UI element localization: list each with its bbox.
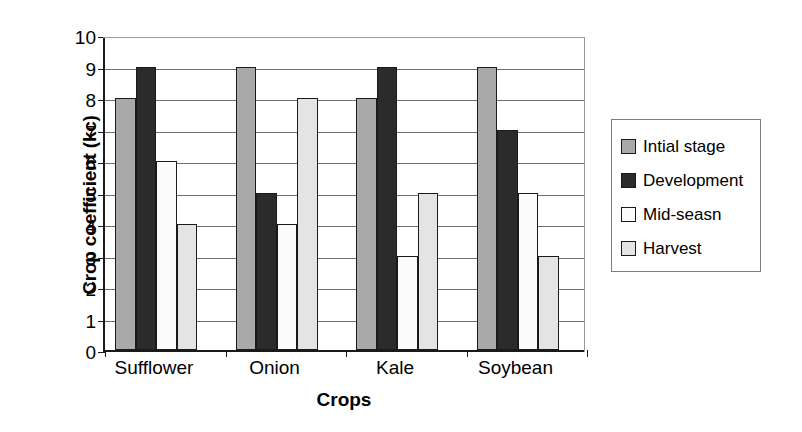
legend-item: Intial stage (621, 129, 760, 163)
legend-label: Harvest (643, 240, 702, 257)
bar (136, 67, 157, 351)
x-axis-tick-mark (226, 350, 227, 357)
x-axis-tick-label: Soybean (478, 358, 553, 377)
plot-area (103, 37, 585, 352)
bar (356, 98, 377, 350)
legend-swatch-icon (621, 207, 636, 222)
bar (497, 130, 518, 351)
y-axis-tick-mark (98, 37, 105, 38)
y-axis-tick-label: 3 (56, 248, 96, 267)
x-axis-tick-mark (105, 350, 106, 357)
x-axis-tick-mark (467, 350, 468, 357)
bar (397, 256, 418, 351)
bar (277, 224, 298, 350)
legend-label: Mid-seasn (643, 206, 721, 223)
bar (377, 67, 398, 351)
y-axis-tick-mark (98, 321, 105, 322)
y-axis-tick-label: 0 (56, 343, 96, 362)
y-axis-tick-label: 2 (56, 280, 96, 299)
legend-label: Intial stage (643, 138, 725, 155)
y-axis-tick-label: 4 (56, 217, 96, 236)
y-axis-tick-label: 5 (56, 185, 96, 204)
x-axis-tick-label: Sufflower (115, 358, 194, 377)
y-axis-tick-mark (98, 352, 105, 353)
bar (518, 193, 539, 351)
bar (418, 193, 439, 351)
y-axis-tick-label: 10 (56, 28, 96, 47)
y-axis-tick-mark (98, 195, 105, 196)
y-axis-tick-mark (98, 289, 105, 290)
bar (115, 98, 136, 350)
legend-swatch-icon (621, 241, 636, 256)
x-axis-tick-label: Onion (249, 358, 300, 377)
x-axis-title: Crops (103, 389, 585, 411)
legend-item: Development (621, 163, 760, 197)
x-axis-tick-mark (587, 350, 588, 357)
bar (256, 193, 277, 351)
x-axis-tick-label: Kale (376, 358, 414, 377)
y-axis-tick-label: 7 (56, 122, 96, 141)
y-axis-tick-label: 6 (56, 154, 96, 173)
bar (236, 67, 257, 351)
bar-chart-figure: Crop coefficient (kc) 012345678910 Suffl… (0, 0, 802, 432)
gridline (105, 37, 585, 38)
bar (477, 67, 498, 351)
y-axis-tick-label: 1 (56, 311, 96, 330)
gridline (105, 100, 585, 101)
legend-label: Development (643, 172, 743, 189)
y-axis-tick-mark (98, 100, 105, 101)
legend-item: Mid-seasn (621, 197, 760, 231)
x-axis-tick-labels: SufflowerOnionKaleSoybean (103, 358, 585, 384)
y-axis-tick-labels: 012345678910 (56, 37, 96, 352)
y-axis-tick-mark (98, 226, 105, 227)
gridline (105, 69, 585, 70)
y-axis-tick-label: 9 (56, 59, 96, 78)
legend-swatch-icon (621, 139, 636, 154)
x-axis-tick-mark (346, 350, 347, 357)
bar (297, 98, 318, 350)
legend-item: Harvest (621, 231, 760, 265)
bar (538, 256, 559, 351)
bar (156, 161, 177, 350)
y-axis-tick-mark (98, 132, 105, 133)
y-axis-tick-mark (98, 69, 105, 70)
bar (177, 224, 198, 350)
chart-legend: Intial stageDevelopmentMid-seasnHarvest (611, 119, 761, 272)
y-axis-tick-label: 8 (56, 91, 96, 110)
y-axis-tick-mark (98, 163, 105, 164)
legend-swatch-icon (621, 173, 636, 188)
y-axis-tick-mark (98, 258, 105, 259)
